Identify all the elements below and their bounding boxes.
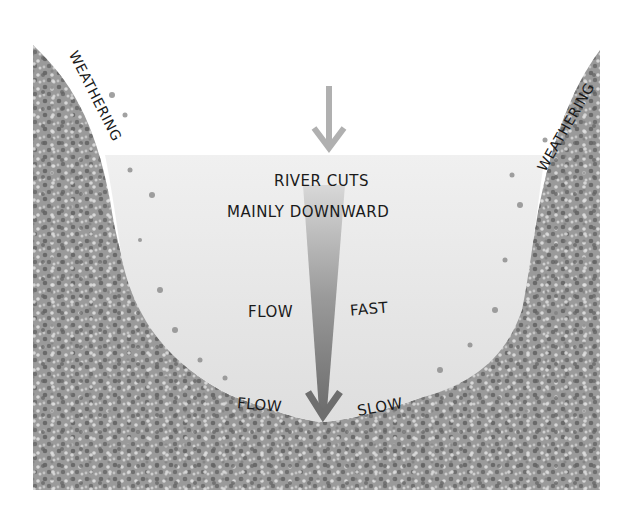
flow-slow-left-label: FLOW — [236, 394, 282, 416]
flow-fast-right-label: FAST — [349, 298, 389, 319]
title-line-2: MAINLY DOWNWARD — [227, 203, 389, 221]
down-arrow-icon — [314, 86, 344, 148]
flow-fast-left-label: FLOW — [248, 303, 293, 321]
title-line-1: RIVER CUTS — [274, 172, 369, 190]
valley-cross-section — [0, 0, 643, 512]
river-valley-diagram: RIVER CUTS MAINLY DOWNWARD FLOW FAST FLO… — [0, 0, 643, 512]
